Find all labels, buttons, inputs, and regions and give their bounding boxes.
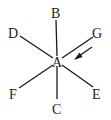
line-a-d (20, 36, 53, 58)
line-a-f (19, 65, 53, 88)
line-a-g (62, 37, 93, 58)
label-d: D (8, 26, 18, 41)
label-c: C (52, 102, 61, 117)
label-b: B (51, 6, 60, 21)
label-center-a: A (52, 55, 63, 70)
label-e: E (92, 87, 101, 102)
label-g: G (92, 26, 102, 41)
star-diagram: A B C D E F G (0, 0, 111, 120)
arrow-icon (74, 47, 92, 60)
label-f: F (9, 87, 17, 102)
line-a-b (56, 20, 57, 56)
line-a-e (62, 65, 93, 87)
